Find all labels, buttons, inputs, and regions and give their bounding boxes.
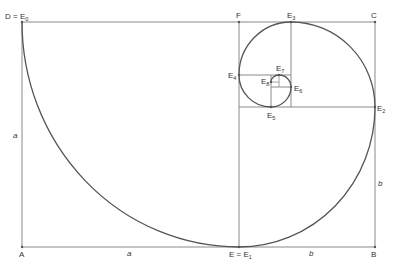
label-E3: E3 [287, 11, 295, 21]
length-bottom-b: b [309, 249, 314, 258]
label-E5: E5 [267, 111, 275, 121]
label-E6: E6 [294, 84, 302, 94]
length-bottom-a: a [127, 249, 132, 258]
outer-rectangle [22, 22, 375, 247]
label-E4: E4 [228, 71, 236, 81]
label-E1: E = E1 [229, 250, 252, 260]
label-A: A [19, 250, 25, 259]
label-C: C [371, 11, 377, 20]
label-D: D = E0 [5, 12, 28, 22]
label-F: F [236, 11, 241, 20]
label-E8: E8 [261, 77, 269, 87]
length-right-b: b [378, 179, 383, 188]
golden-spiral [22, 22, 375, 247]
label-E2: E2 [377, 104, 385, 114]
vertex-dots [21, 21, 376, 248]
label-E7: E7 [276, 64, 284, 74]
golden-spiral-diagram: D = E0 F E3 C E4 E7 E8 E6 E5 E2 A E = E1… [0, 0, 393, 271]
length-left-a: a [13, 131, 18, 140]
label-B: B [371, 250, 376, 259]
